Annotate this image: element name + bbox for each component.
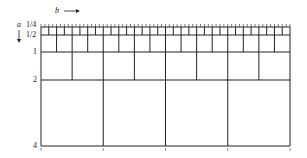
axis-b-label: b — [55, 6, 59, 15]
row-label-2: 2 — [33, 75, 37, 84]
row-label-quarter: 1/4 — [26, 20, 36, 29]
row-label-1: 1 — [33, 47, 37, 56]
row-label-half: 1/2 — [26, 30, 36, 39]
hierarchical-grid-diagram — [0, 0, 307, 158]
arrow-right-icon — [76, 9, 80, 13]
arrow-down-icon — [17, 39, 21, 43]
row-label-4: 4 — [33, 141, 37, 150]
axis-a-label: a — [17, 20, 21, 29]
